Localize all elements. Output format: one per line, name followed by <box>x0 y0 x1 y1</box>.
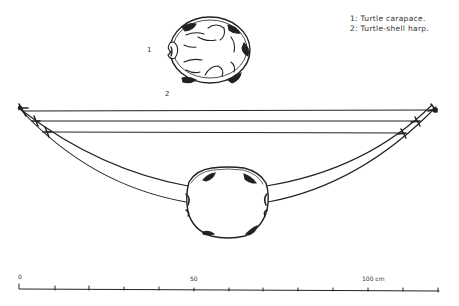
turtle-shell-harp-drawing <box>18 104 437 238</box>
harp-string-1 <box>24 110 434 111</box>
scale-bar <box>19 284 439 292</box>
harp-illustration <box>0 0 459 306</box>
scale-label-50: 50 <box>190 275 198 282</box>
turtle-carapace-drawing <box>168 17 250 83</box>
legend-item-carapace: 1: Turtle carapace. <box>350 14 429 24</box>
figure-label-1: 1 <box>147 46 151 54</box>
scale-label-0: 0 <box>18 273 22 280</box>
harp-string-3 <box>47 132 404 133</box>
figure-label-2: 2 <box>165 90 169 98</box>
legend-item-harp: 2: Turtle-shell harp. <box>350 24 429 34</box>
figure-legend: 1: Turtle carapace. 2: Turtle-shell harp… <box>350 14 429 34</box>
scale-label-100cm: 100 cm <box>362 275 385 282</box>
